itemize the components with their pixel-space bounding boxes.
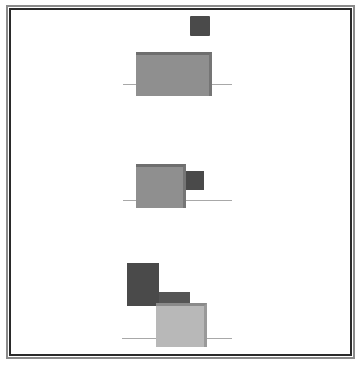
middle-medium-block [136, 164, 186, 208]
top-large-medium-block [136, 52, 212, 96]
bottom-dark-tall-block [127, 263, 159, 306]
middle-dark-block [186, 171, 204, 190]
top-small-dark-block [190, 16, 210, 36]
bottom-light-block [156, 303, 207, 347]
